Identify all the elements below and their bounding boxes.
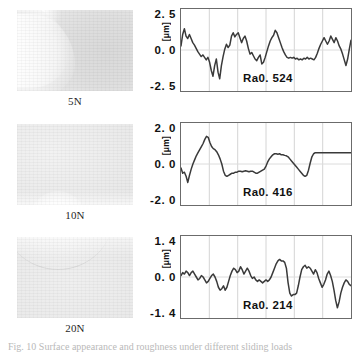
y-tick-mid-10n: 0. 0 <box>136 158 176 170</box>
figure-caption: Fig. 10 Surface appearance and roughness… <box>8 341 356 353</box>
micrograph-grain-texture <box>17 124 133 205</box>
y-tick-top-10n: 2. 0 <box>136 122 176 134</box>
ra-value-5n: Ra0. 524 <box>243 72 293 84</box>
ra-value-20n: Ra0. 214 <box>243 299 293 311</box>
micrograph-image-20n <box>17 237 133 318</box>
roughness-profile-chart-20n: Ra0. 214 <box>180 235 352 319</box>
load-label-10n: 10N <box>17 208 133 222</box>
ra-value-10n: Ra0. 416 <box>243 186 293 198</box>
y-axis-5n: 2. 5 [μm] 0. 0 -2. 5 <box>136 8 176 92</box>
y-axis-unit-10n: [μm] <box>161 136 171 155</box>
load-label-5n: 5N <box>17 94 133 108</box>
micrograph-image-10n <box>17 124 133 205</box>
y-tick-bottom-10n: -2. 0 <box>136 194 176 206</box>
measurement-row-5n: 5N 2. 5 [μm] 0. 0 -2. 5 Ra0. 524 <box>0 4 359 116</box>
y-tick-mid-5n: 0. 0 <box>136 44 176 56</box>
micrograph-grain-texture <box>17 237 133 318</box>
y-tick-top-5n: 2. 5 <box>136 8 176 20</box>
y-axis-10n: 2. 0 [μm] 0. 0 -2. 0 <box>136 122 176 206</box>
surface-micrograph-10n <box>17 124 133 205</box>
y-tick-top-20n: 1. 4 <box>136 235 176 247</box>
y-tick-mid-20n: 0. 0 <box>136 271 176 283</box>
load-label-20n: 20N <box>17 321 133 335</box>
roughness-profile-chart-10n: Ra0. 416 <box>180 122 352 206</box>
measurement-row-20n: 20N 1. 4 [μm] 0. 0 -1. 4 Ra0. 214 <box>0 231 359 343</box>
roughness-profile-chart-5n: Ra0. 524 <box>180 8 352 92</box>
measurement-row-10n: 10N 2. 0 [μm] 0. 0 -2. 0 Ra0. 416 <box>0 118 359 230</box>
micrograph-image-5n <box>17 10 133 91</box>
surface-micrograph-20n <box>17 237 133 318</box>
y-axis-20n: 1. 4 [μm] 0. 0 -1. 4 <box>136 235 176 319</box>
y-tick-bottom-5n: -2. 5 <box>136 80 176 92</box>
micrograph-grain-texture <box>17 10 133 91</box>
y-axis-unit-20n: [μm] <box>161 249 171 268</box>
surface-micrograph-5n <box>17 10 133 91</box>
y-tick-bottom-20n: -1. 4 <box>136 307 176 319</box>
y-axis-unit-5n: [μm] <box>161 22 171 41</box>
